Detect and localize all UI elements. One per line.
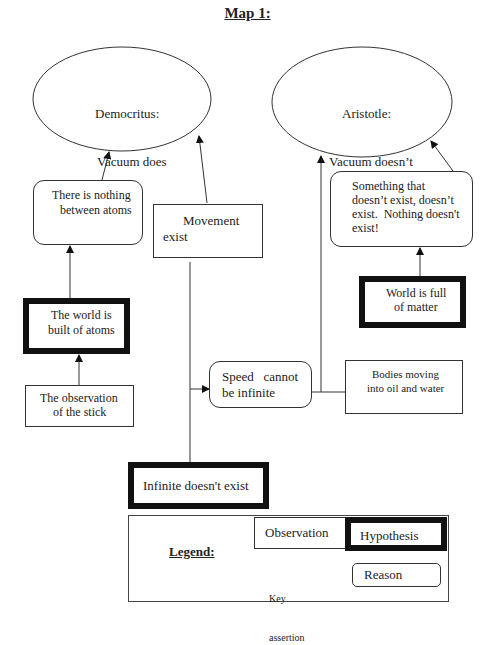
legend-hypothesis: Hypothesis — [345, 517, 447, 551]
node-world-full-of-matter: World is full of matter — [359, 276, 466, 328]
node-text: The world is — [51, 308, 112, 323]
node-text: between atoms — [60, 203, 132, 218]
legend-hypothesis-label: Hypothesis — [360, 528, 419, 543]
node-text: Speed cannot — [222, 369, 298, 384]
legend-reason: Reason — [352, 563, 441, 587]
node-text: of the stick — [53, 405, 106, 420]
edge-something-to-aristotle — [431, 141, 453, 171]
legend-key-assertion-label: Key assertion — [269, 566, 305, 645]
node-text: exist. Nothing doesn't — [352, 207, 460, 222]
node-text: Infinite doesn't exist — [143, 478, 249, 493]
node-movement-exist: Movement exist — [153, 204, 263, 258]
legend-observation-label: Observation — [265, 525, 329, 540]
edge-movement-to-democritus — [199, 136, 207, 203]
node-text: Something that — [352, 179, 425, 194]
node-world-built-of-atoms: The world is built of atoms — [23, 298, 130, 354]
node-text: The observation — [40, 391, 118, 406]
node-nothing-between-atoms: There is nothing between atoms — [33, 180, 143, 245]
node-text: exist! — [352, 221, 379, 236]
node-something-that-doesnt-exist: Something that doesn’t exist, doesn’t ex… — [330, 171, 473, 247]
node-text: exist — [163, 229, 188, 244]
node-text: Bodies moving — [372, 367, 439, 382]
map-title: Map 1: — [0, 5, 495, 22]
node-infinite-doesnt-exist: Infinite doesn't exist — [128, 462, 269, 509]
node-observation-of-stick: The observation of the stick — [25, 385, 134, 427]
legend-observation: Observation — [254, 517, 346, 549]
node-text: There is nothing — [52, 188, 131, 203]
node-speed-cannot-be-infinite: Speed cannot be infinite — [209, 361, 312, 408]
legend-title: Legend: — [169, 544, 215, 560]
node-text: built of atoms — [48, 323, 115, 338]
node-text: into oil and water — [367, 381, 444, 396]
node-text: of matter — [394, 300, 438, 315]
node-text: be infinite — [222, 385, 275, 400]
node-text: Movement — [183, 213, 239, 228]
legend-reason-label: Reason — [364, 567, 402, 582]
node-text: World is full — [386, 286, 446, 301]
node-text: doesn’t exist, doesn’t — [352, 193, 454, 208]
node-bodies-moving: Bodies moving into oil and water — [345, 360, 463, 414]
